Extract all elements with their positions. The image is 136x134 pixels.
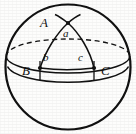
label-angle-a: a [63,28,69,39]
vertex-point-A [66,21,70,25]
arc-AC-overshoot [55,15,68,24]
label-vertex-B: B [22,64,30,77]
arc-side-BC [40,68,94,70]
label-angle-c: c [78,52,83,63]
label-vertex-A: A [40,16,48,29]
vertex-point-C [92,66,96,70]
figure-canvas [0,0,136,134]
label-angle-b: b [43,52,49,63]
arc-AB-overshoot [68,15,81,24]
vertex-point-B [38,66,42,70]
spherical-triangle-figure: A a b c B C [0,0,136,134]
equator-back-dashed [6,39,130,56]
label-vertex-C: C [101,64,110,77]
